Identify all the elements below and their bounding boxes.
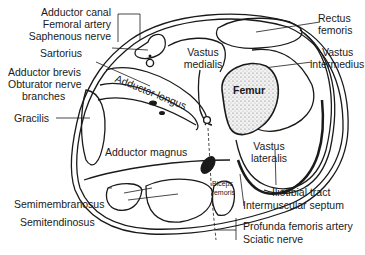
label-intermuscular-septum: Intermuscular septum [243,199,344,211]
label-branches: branches [22,90,65,102]
label-saphenous-nerve: Saphenous nerve [0,30,111,42]
label-vastus-lateralis-2: lateralis [244,152,294,164]
label-semimembranosus: Semimembranosus [14,198,104,210]
rectus-femoris-outline [216,18,301,48]
label-gracilis: Gracilis [14,112,49,124]
thigh-cross-section-diagram: Adductor canal Femoral artery Saphenous … [0,0,365,255]
label-femoris: femoris [318,24,352,36]
sciatic-nerve-icon [197,153,218,176]
label-adductor-magnus: Adductor magnus [105,146,187,158]
femoral-vessel-icon [146,59,153,66]
femur-bone [222,63,278,134]
label-vastus-intermedius-2: intermedius [310,58,364,70]
label-vastus-lateralis-1: Vastus [244,140,294,152]
label-vastus-intermedius-1: Vastus [322,46,353,58]
label-obturator-nerve: Obturator nerve [8,78,82,90]
label-femoral-artery: Femoral artery [0,18,111,30]
label-adductor-brevis: Adductor brevis [8,66,81,78]
label-biceps-femoris: femoris [212,189,235,197]
label-adductor-canal: Adductor canal [0,6,111,18]
label-rectus: Rectus [318,12,351,24]
label-iliotibial-tract: Iliotibial tract [272,186,330,198]
label-semitendinosus: Semitendinosus [20,216,95,228]
label-sciatic-nerve: Sciatic nerve [243,233,303,245]
gracilis-outline [82,90,106,165]
profunda-vessel-icon [204,117,211,124]
label-vastus-medialis-2: medialis [178,58,228,70]
label-sartorius: Sartorius [0,47,82,59]
label-biceps: Biceps [212,180,233,188]
label-femur: Femur [233,84,265,96]
label-profunda-femoris-artery: Profunda femoris artery [243,220,353,232]
label-vastus-medialis-1: Vastus [178,46,228,58]
